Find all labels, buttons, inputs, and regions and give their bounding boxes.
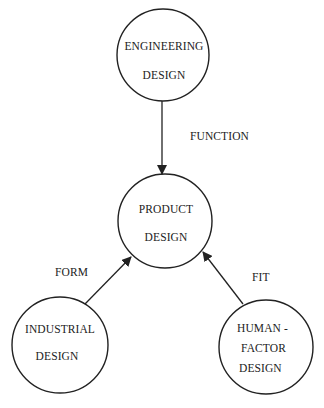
node-product-line1: PRODUCT (139, 203, 193, 215)
edge-form-arrow (85, 257, 131, 304)
node-product-design-circle (118, 174, 212, 268)
node-human-factor-line2: FACTOR (241, 342, 286, 354)
diagram-canvas: ENGINEERING DESIGN PRODUCT DESIGN INDUST… (0, 0, 324, 408)
node-human-factor-line1: HUMAN - (237, 322, 288, 334)
edge-form-label: FORM (55, 266, 88, 278)
edge-function-label: FUNCTION (190, 130, 249, 142)
node-human-factor-line3: DESIGN (239, 362, 282, 374)
edge-fit-arrow (203, 252, 243, 304)
node-engineering-line2: DESIGN (143, 69, 186, 81)
node-industrial-line2: DESIGN (36, 350, 79, 362)
node-industrial-line1: INDUSTRIAL (25, 323, 95, 335)
edge-fit-label: FIT (252, 271, 270, 283)
node-engineering-line1: ENGINEERING (124, 40, 203, 52)
node-engineering-design-circle (117, 9, 209, 101)
node-industrial-design-circle (12, 297, 108, 393)
node-product-line2: DESIGN (145, 231, 188, 243)
